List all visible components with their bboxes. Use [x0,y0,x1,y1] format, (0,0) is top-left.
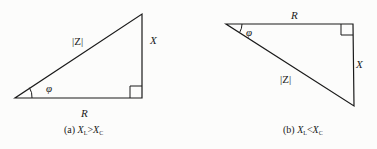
label-a-hypotenuse: |Z| [72,36,83,47]
impedance-triangle-figure: |Z| X φ R (a) XL>XC R φ |Z| X (b) XL<XC [0,0,377,149]
label-a-vertical: X [150,35,157,46]
label-b-hypotenuse: |Z| [280,74,291,85]
right-angle-marker-a [130,86,142,98]
label-b-angle: φ [246,27,252,38]
caption-a: (a) XL>XC [64,124,103,139]
triangle-a [15,14,142,98]
label-a-angle: φ [46,83,52,94]
label-b-horizontal: R [291,10,298,21]
caption-b-prefix: (b) [283,124,295,135]
right-angle-marker-b [341,24,353,35]
angle-arc-a [29,88,32,98]
caption-a-prefix: (a) [64,124,75,135]
label-b-vertical: X [356,59,363,70]
caption-b-right-sub: C [319,130,323,136]
caption-b: (b) XL<XC [283,124,323,139]
triangle-a-outline [15,14,142,98]
label-a-horizontal: R [81,108,88,119]
angle-arc-b [240,24,242,32]
caption-a-right-sub: C [99,130,103,136]
